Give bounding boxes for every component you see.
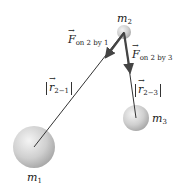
label-force-on-2-by-3: Fon 2 by 3: [132, 49, 172, 62]
label-force-on-2-by-1: Fon 2 by 1: [68, 34, 108, 47]
label-distance-2-3: r2−3: [135, 84, 161, 97]
gravitational-force-diagram: m2 Fon 2 by 1 Fon 2 by 3 r2−1 r2−3 m3 m1: [0, 0, 184, 192]
label-m1: m1: [27, 172, 42, 185]
label-distance-2-1: r2−1: [46, 82, 72, 95]
force-arrow-on-2-by-3: [124, 33, 130, 72]
label-m3: m3: [152, 113, 167, 126]
label-m2: m2: [117, 13, 132, 26]
force-arrow-on-2-by-1: [106, 33, 124, 57]
